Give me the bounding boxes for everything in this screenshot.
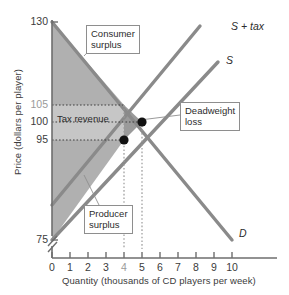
callout-consumer-surplus-line2: surplus [91, 39, 135, 50]
x-tick-label-5: 5 [136, 261, 148, 273]
y-tick-label-100: 100 [22, 115, 48, 127]
x-tick-label-1: 1 [64, 261, 76, 273]
callout-deadweight-loss-line2: loss [185, 116, 235, 127]
curve-label-demand: D [239, 227, 247, 239]
y-tick-label-95: 95 [22, 133, 48, 145]
x-tick-label-6: 6 [154, 261, 166, 273]
x-tick-label-7: 7 [172, 261, 184, 273]
chart-plot-area [0, 0, 289, 295]
callout-producer-surplus-line1: Producer [89, 208, 128, 219]
y-tick-label-75: 75 [22, 233, 48, 245]
x-tick-label-9: 9 [208, 261, 220, 273]
supply-demand-tax-chart: Price (dollars per player) Quantity (tho… [0, 0, 289, 295]
curve-label-supply: S [226, 54, 233, 66]
x-tick-label-0: 0 [46, 261, 58, 273]
label-tax-revenue: Tax revenue [57, 113, 109, 124]
x-tick-label-2: 2 [82, 261, 94, 273]
curve-label-supply-plus-tax: S + tax [231, 20, 264, 32]
x-axis-title: Quantity (thousands of CD players per we… [62, 275, 256, 286]
marker-with-tax-buyer-price [119, 135, 128, 144]
x-tick-label-10: 10 [224, 261, 240, 273]
callout-deadweight-loss: Deadweight loss [180, 102, 240, 131]
y-tick-label-105: 105 [22, 98, 48, 110]
deadweight-loss-leader [140, 115, 180, 120]
x-tick-label-3: 3 [100, 261, 112, 273]
callout-deadweight-loss-line1: Deadweight [185, 105, 235, 116]
marker-no-tax-equilibrium [137, 117, 146, 126]
callout-producer-surplus-line2: surplus [89, 219, 128, 230]
callout-producer-surplus: Producer surplus [84, 205, 133, 234]
x-tick-marks [52, 252, 232, 258]
y-tick-label-130: 130 [22, 15, 48, 27]
x-tick-label-8: 8 [190, 261, 202, 273]
callout-consumer-surplus-line1: Consumer [91, 28, 135, 39]
x-tick-label-4: 4 [118, 261, 130, 273]
callout-consumer-surplus: Consumer surplus [86, 25, 140, 54]
